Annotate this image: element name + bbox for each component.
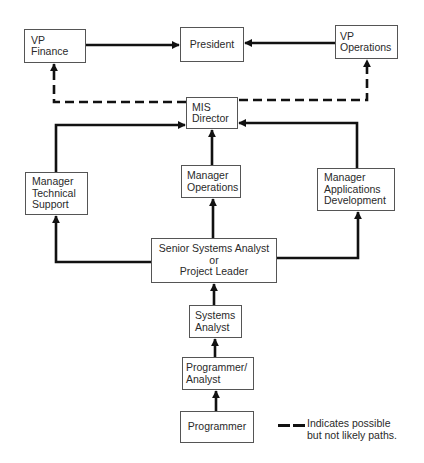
box-vp-operations: VP Operations	[335, 25, 398, 59]
box-label-line: Support	[32, 199, 81, 211]
box-mis-director: MIS Director	[186, 97, 238, 129]
box-manager-applications-development: Manager Applications Development	[317, 168, 395, 211]
edge-mis-vpfinance-dashed	[54, 64, 186, 102]
edge-mis-vpoperations-dashed	[239, 60, 367, 100]
legend-text: Indicates possible but not likely paths.	[307, 417, 397, 441]
box-label-line: Project Leader	[180, 266, 248, 278]
box-manager-operations: Manager Operations	[181, 165, 241, 198]
box-label-line: Development	[324, 195, 388, 207]
box-label-line: Systems	[195, 310, 236, 322]
box-label-line: Analyst	[186, 374, 250, 386]
box-senior-systems-analyst: Senior Systems Analyst or Project Leader	[151, 238, 277, 283]
box-label-line: Finance	[31, 46, 79, 58]
box-label-line: Manager	[187, 170, 235, 182]
box-programmer-analyst: Programmer/ Analyst	[182, 357, 254, 390]
box-label-line: Operations	[340, 42, 393, 54]
legend-line: but not likely paths.	[307, 429, 397, 441]
legend: Indicates possible but not likely paths.	[278, 417, 397, 441]
edge-senior-techsupport	[56, 216, 151, 262]
connector-lines	[0, 0, 424, 463]
legend-line: Indicates possible	[307, 417, 397, 429]
box-label-line: Analyst	[195, 322, 236, 334]
box-label-line: Programmer/	[186, 362, 250, 374]
box-label-line: President	[190, 39, 234, 51]
edge-appsdev-mis	[239, 123, 357, 168]
box-label-line: Programmer	[188, 421, 246, 433]
box-systems-analyst: Systems Analyst	[189, 305, 242, 338]
box-label-line: Director	[192, 113, 232, 125]
box-label-line: Operations	[187, 182, 235, 194]
box-vp-finance: VP Finance	[24, 29, 86, 63]
box-manager-technical-support: Manager Technical Support	[25, 172, 88, 215]
box-president: President	[180, 27, 244, 62]
box-programmer: Programmer	[180, 411, 254, 443]
edge-techsupport-mis	[56, 125, 185, 172]
dashed-line-icon	[278, 419, 306, 431]
edge-senior-appsdev	[277, 212, 358, 258]
